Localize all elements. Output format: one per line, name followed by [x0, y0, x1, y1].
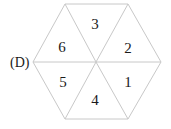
section-label: 2: [124, 40, 132, 56]
hexagon-spoke: [65, 62, 96, 119]
section-label: 5: [59, 74, 67, 90]
hexagon-diagram: (D) 3 2 6 5 1 4: [0, 0, 171, 129]
section-label: 3: [91, 16, 99, 32]
section-label: 4: [91, 92, 99, 108]
section-label: 1: [124, 74, 132, 90]
hexagon-spoke: [96, 4, 128, 62]
option-label: (D): [10, 55, 30, 71]
hexagon-spoke: [65, 4, 96, 62]
hexagon-spoke: [96, 62, 128, 119]
section-label: 6: [58, 39, 66, 55]
